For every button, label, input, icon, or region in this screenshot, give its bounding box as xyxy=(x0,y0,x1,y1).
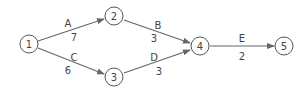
node-1: 1 xyxy=(20,35,38,53)
edge-4-5-activity: E xyxy=(239,33,245,44)
edge-2-4-duration: 3 xyxy=(151,33,157,44)
edge-1-3-duration: 6 xyxy=(65,65,71,76)
node-4: 4 xyxy=(191,37,209,55)
edge-3-4-activity: D xyxy=(150,52,158,63)
node-3: 3 xyxy=(105,68,123,86)
edge-1-2-activity: A xyxy=(65,18,72,29)
edge-2-4-activity: B xyxy=(155,20,162,31)
node-1-label: 1 xyxy=(26,39,32,50)
edge-1-2-duration: 7 xyxy=(71,32,77,43)
edge-3-4-duration: 3 xyxy=(156,66,162,77)
node-2-label: 2 xyxy=(111,11,117,22)
node-2: 2 xyxy=(105,7,123,25)
edge-4-5-duration: 2 xyxy=(239,51,245,62)
node-5: 5 xyxy=(275,37,293,55)
node-5-label: 5 xyxy=(281,41,287,52)
network-diagram: A 7 C 6 B 3 D 3 E 2 1 2 3 4 5 xyxy=(0,0,308,89)
node-3-label: 3 xyxy=(111,72,117,83)
node-4-label: 4 xyxy=(197,41,203,52)
edge-1-3-activity: C xyxy=(71,52,78,63)
